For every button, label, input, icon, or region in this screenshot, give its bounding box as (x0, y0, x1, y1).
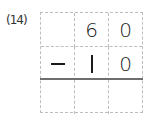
minus-icon (51, 63, 65, 65)
answer-cell-ones[interactable] (109, 80, 142, 114)
digit-one-glyph (91, 55, 93, 73)
minuend-tens-digit: 6 (75, 13, 109, 47)
minuend-row: 6 0 (41, 13, 142, 47)
answer-cell-tens[interactable] (75, 80, 109, 114)
minuend-ones-digit: 0 (109, 13, 142, 47)
subtrahend-ones-digit: 0 (109, 47, 142, 81)
answer-divider-line (40, 78, 143, 80)
subtrahend-row: 0 (41, 47, 142, 81)
minuend-tens-hundreds-cell (41, 13, 75, 47)
answer-cell-hundreds[interactable] (41, 80, 75, 114)
vertical-subtraction-grid: 6 0 0 (40, 12, 143, 113)
answer-row (41, 80, 142, 114)
problem-number-label: (14) (6, 13, 27, 27)
minus-sign-cell (41, 47, 75, 81)
subtrahend-tens-digit (75, 47, 109, 81)
